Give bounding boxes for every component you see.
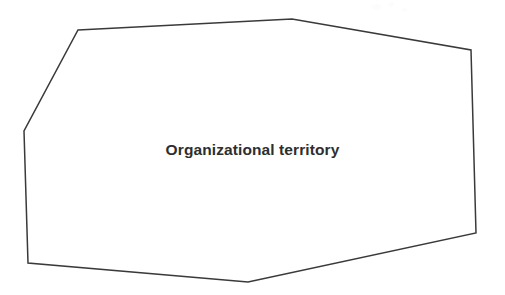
diagram-canvas: Organizational territory (0, 0, 505, 295)
territory-label: Organizational territory (0, 142, 505, 158)
